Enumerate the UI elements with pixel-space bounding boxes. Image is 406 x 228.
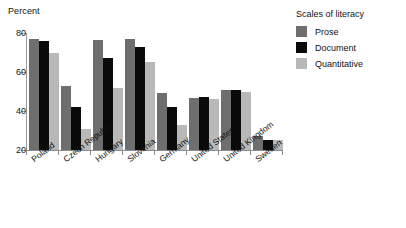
- bar: [157, 93, 167, 150]
- x-tick-mark: [282, 150, 283, 155]
- y-tick-label: 80: [9, 29, 26, 38]
- plot-area: [26, 33, 281, 150]
- legend-item-label: Prose: [315, 27, 339, 37]
- legend-swatch-icon: [296, 42, 307, 53]
- bar: [61, 86, 71, 150]
- x-tick-mark: [186, 150, 187, 155]
- legend-item-label: Document: [315, 43, 356, 53]
- x-tick-mark: [218, 150, 219, 155]
- legend-item[interactable]: Quantitative: [296, 58, 402, 69]
- x-tick-mark: [26, 150, 27, 155]
- y-axis-title: Percent: [8, 6, 40, 16]
- literacy-bar-chart: Percent 80604020 PolandCzech RepublicHun…: [0, 0, 406, 228]
- legend-title: Scales of literacy: [296, 9, 402, 19]
- x-tick-mark: [250, 150, 251, 155]
- bar-group: [189, 33, 219, 150]
- y-tick-label: 40: [9, 107, 26, 116]
- bar-group: [125, 33, 155, 150]
- bar: [103, 58, 113, 150]
- y-tick-label: 20: [9, 146, 26, 155]
- legend-item[interactable]: Prose: [296, 26, 402, 37]
- bar: [39, 41, 49, 150]
- legend-item-label: Quantitative: [315, 59, 363, 69]
- x-tick-mark: [122, 150, 123, 155]
- bar: [49, 53, 59, 150]
- legend-item[interactable]: Document: [296, 42, 402, 53]
- bar-group: [29, 33, 59, 150]
- bar: [125, 39, 135, 150]
- x-tick-mark: [154, 150, 155, 155]
- legend-items: ProseDocumentQuantitative: [296, 26, 402, 69]
- legend-swatch-icon: [296, 58, 307, 69]
- bar-group: [61, 33, 91, 150]
- x-tick-mark: [90, 150, 91, 155]
- bar-group: [157, 33, 187, 150]
- legend-swatch-icon: [296, 26, 307, 37]
- bar: [29, 39, 39, 150]
- x-tick-mark: [58, 150, 59, 155]
- bar: [135, 47, 145, 150]
- legend: Scales of literacy ProseDocumentQuantita…: [296, 9, 402, 74]
- y-tick-label: 60: [9, 68, 26, 77]
